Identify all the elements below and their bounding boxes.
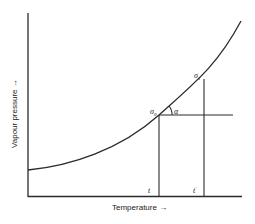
angle-alpha-arc [169,106,172,115]
point-label-sigma0: σ0 [150,107,157,117]
tick-label-t: t [148,186,151,195]
y-axis-label: Vapour pressure → [10,79,19,148]
x-axis-label: Temperature → [112,203,167,212]
vapour-pressure-curve [28,21,241,170]
vapour-pressure-diagram: σ0 σ1 α t t′ Temperature → Vapour pressu… [0,0,255,224]
tick-label-t-prime: t′ [193,186,197,195]
point-label-sigma1: σ1 [194,71,200,81]
